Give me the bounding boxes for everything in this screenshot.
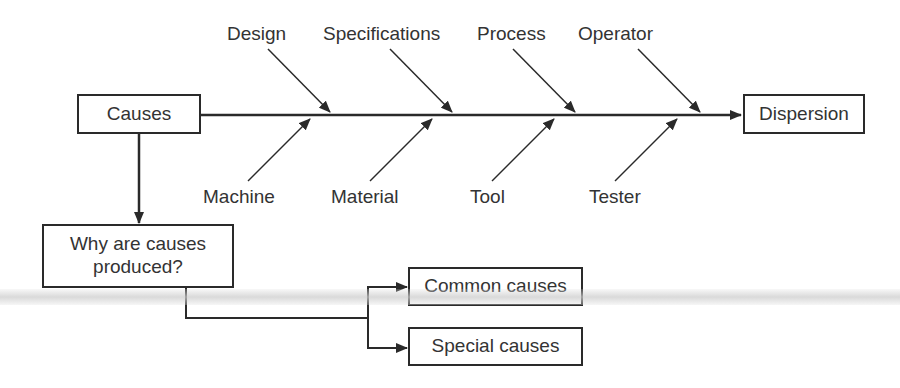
branch-arrow-machine [248,119,310,181]
question-connector-line [186,287,368,318]
question-box: Why are causes produced? [42,224,234,288]
special-causes-box: Special causes [408,327,583,366]
label-tool: Tool [470,187,505,206]
label-operator: Operator [578,24,653,43]
connector-to-special-causes [368,318,407,348]
question-box-line-2: produced? [93,256,183,279]
branch-arrow-tool [492,119,554,181]
special-causes-label: Special causes [432,335,560,358]
label-design: Design [227,24,286,43]
label-material: Material [331,187,399,206]
question-box-line-1: Why are causes [70,233,206,256]
common-causes-box: Common causes [408,267,583,306]
common-causes-label: Common causes [424,275,567,298]
causes-box: Causes [77,94,201,134]
connector-to-common-causes [368,287,407,348]
branch-arrow-process [513,49,575,112]
label-process: Process [477,24,546,43]
branch-arrow-design [268,49,330,112]
dispersion-box-label: Dispersion [759,103,849,126]
label-tester: Tester [589,187,641,206]
label-machine: Machine [203,187,275,206]
causes-box-label: Causes [107,103,171,126]
label-specifications: Specifications [323,24,440,43]
branch-arrow-material [370,119,432,181]
branch-arrow-tester [615,119,677,181]
dispersion-box: Dispersion [743,94,865,134]
branch-arrow-specifications [390,49,452,112]
branch-arrow-operator [638,49,700,112]
